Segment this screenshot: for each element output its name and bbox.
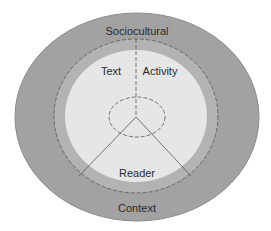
label-context: Context bbox=[118, 202, 156, 214]
label-sociocultural: Sociocultural bbox=[106, 25, 169, 37]
label-reader: Reader bbox=[119, 167, 155, 179]
label-text: Text bbox=[101, 65, 121, 77]
reading-model-diagram: Sociocultural Text Activity Reader Conte… bbox=[0, 0, 271, 231]
label-activity: Activity bbox=[143, 65, 178, 77]
